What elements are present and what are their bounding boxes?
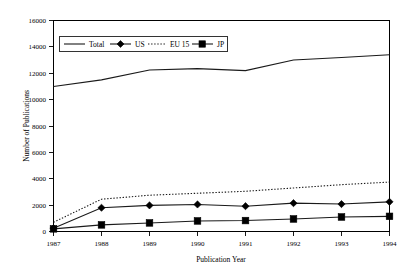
x-tick-label: 1989: [143, 240, 158, 248]
y-tick-label: 4000: [32, 175, 47, 183]
chart-figure: 16000 14000 12000 10000 8000 6000 4000 2…: [0, 0, 409, 275]
y-tick-label: 2000: [32, 202, 47, 210]
x-tick-label: 1987: [47, 240, 62, 248]
y-tick-label: 6000: [32, 149, 47, 157]
legend-label-us: US: [135, 40, 145, 49]
y-axis-title: Number of Publications: [22, 90, 31, 162]
square-icon: [242, 217, 249, 224]
square-icon: [194, 218, 201, 225]
x-tick-label: 1994: [383, 240, 398, 248]
y-tick-label: 12000: [29, 70, 47, 78]
x-axis-title: Publication Year: [196, 255, 246, 264]
square-icon: [50, 226, 57, 233]
x-tick-label: 1991: [239, 240, 254, 248]
y-axis-tick-labels: 16000 14000 12000 10000 8000 6000 4000 2…: [29, 17, 47, 236]
publications-line-chart: 16000 14000 12000 10000 8000 6000 4000 2…: [0, 0, 409, 275]
y-tick-label: 14000: [29, 43, 47, 51]
square-icon: [146, 220, 153, 227]
square-icon: [199, 41, 205, 47]
y-tick-label: 10000: [29, 96, 47, 104]
legend-label-jp: JP: [217, 40, 224, 49]
x-tick-label: 1990: [191, 240, 206, 248]
x-tick-label: 1988: [95, 240, 110, 248]
square-icon: [338, 214, 345, 221]
square-icon: [98, 222, 105, 229]
y-tick-label: 0: [43, 228, 47, 236]
x-tick-label: 1993: [335, 240, 350, 248]
legend-label-eu15: EU 15: [170, 40, 190, 49]
legend-label-total: Total: [89, 40, 104, 49]
square-icon: [386, 213, 393, 220]
y-tick-label: 8000: [32, 123, 47, 131]
y-tick-label: 16000: [29, 17, 47, 25]
chart-legend: Total US EU 15 JP: [60, 37, 228, 52]
square-icon: [290, 216, 297, 223]
x-tick-label: 1992: [287, 240, 302, 248]
